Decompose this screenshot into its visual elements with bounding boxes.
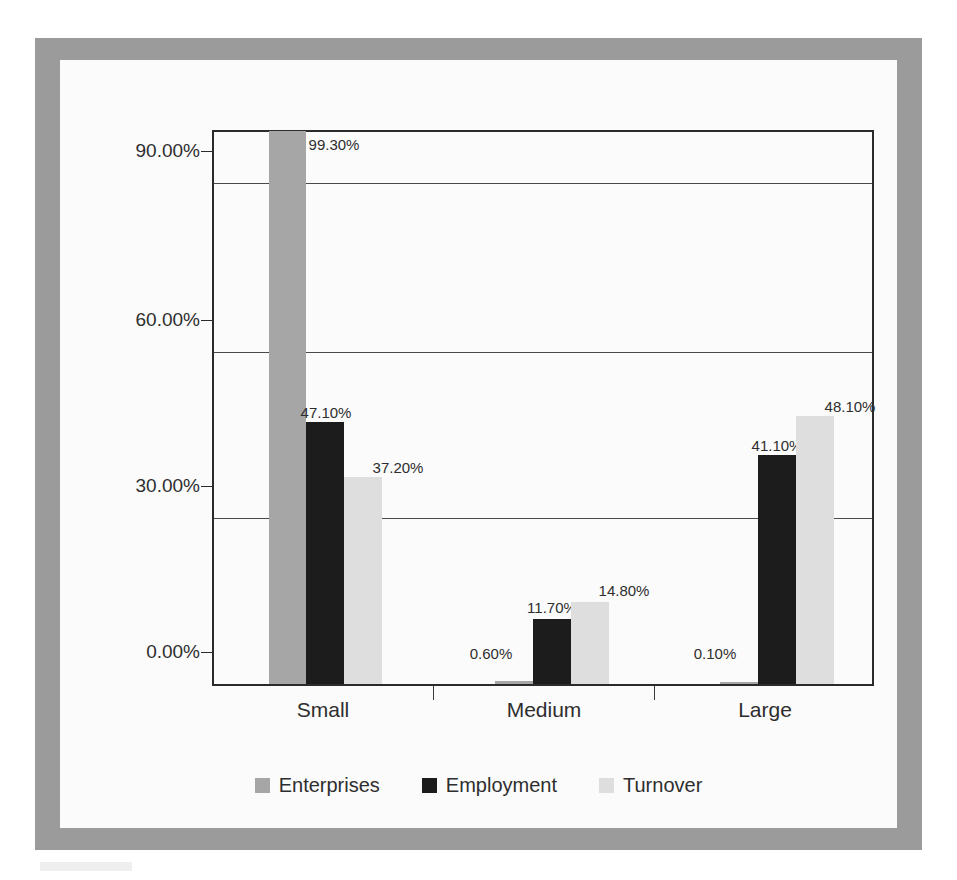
figure-outer-frame: 90.00% 60.00% 30.00% 0.00% 99.30% 47.10%… bbox=[35, 38, 922, 850]
legend-item-employment[interactable]: Employment bbox=[422, 774, 557, 797]
bar-medium-enterprises[interactable] bbox=[495, 681, 533, 684]
x-category-label-medium: Medium bbox=[507, 698, 582, 722]
bar-medium-turnover[interactable] bbox=[571, 602, 609, 684]
legend-swatch-icon-turnover bbox=[599, 778, 614, 793]
bar-large-employment[interactable] bbox=[758, 455, 796, 684]
scan-artifact bbox=[40, 862, 132, 871]
y-tick-label-0: 0.00% bbox=[146, 641, 200, 663]
bar-small-employment[interactable] bbox=[306, 422, 344, 684]
bar-medium-employment[interactable] bbox=[533, 619, 571, 684]
legend-item-enterprises[interactable]: Enterprises bbox=[255, 774, 380, 797]
bar-label-medium-enterprises: 0.60% bbox=[470, 645, 513, 662]
y-tick-label-60: 60.00% bbox=[136, 309, 200, 331]
y-tick-mark-90 bbox=[201, 151, 212, 152]
bar-label-small-turnover: 37.20% bbox=[373, 459, 424, 476]
y-tick-mark-0 bbox=[201, 652, 212, 653]
x-axis-labels: Small Medium Large bbox=[212, 698, 874, 732]
y-tick-label-30: 30.00% bbox=[136, 475, 200, 497]
chart-legend: Enterprises Employment Turnover bbox=[60, 774, 897, 797]
legend-label-turnover: Turnover bbox=[623, 774, 702, 797]
legend-swatch-icon-enterprises bbox=[255, 778, 270, 793]
bar-large-turnover[interactable] bbox=[796, 416, 834, 684]
bar-large-enterprises[interactable] bbox=[720, 682, 758, 684]
bar-label-medium-turnover: 14.80% bbox=[599, 582, 650, 599]
legend-swatch-icon-employment bbox=[422, 778, 437, 793]
y-tick-mark-60 bbox=[201, 320, 212, 321]
bar-label-small-employment: 47.10% bbox=[301, 404, 352, 421]
gridline-90 bbox=[214, 183, 872, 184]
gridline-60 bbox=[214, 352, 872, 353]
x-category-label-small: Small bbox=[297, 698, 350, 722]
x-category-label-large: Large bbox=[738, 698, 792, 722]
bar-small-turnover[interactable] bbox=[344, 477, 382, 684]
legend-label-enterprises: Enterprises bbox=[279, 774, 380, 797]
bar-label-large-turnover: 48.10% bbox=[825, 398, 876, 415]
bar-label-large-enterprises: 0.10% bbox=[694, 645, 737, 662]
plot-area: 99.30% 47.10% 37.20% 0.60% 11.70% 14.80%… bbox=[212, 130, 874, 686]
legend-label-employment: Employment bbox=[446, 774, 557, 797]
bar-label-small-enterprises: 99.30% bbox=[309, 136, 360, 153]
y-axis: 90.00% 60.00% 30.00% 0.00% bbox=[70, 98, 200, 654]
legend-item-turnover[interactable]: Turnover bbox=[599, 774, 702, 797]
bar-label-medium-employment: 11.70% bbox=[527, 599, 577, 616]
y-tick-label-90: 90.00% bbox=[136, 140, 200, 162]
figure-canvas: 90.00% 60.00% 30.00% 0.00% 99.30% 47.10%… bbox=[60, 60, 897, 828]
y-tick-mark-30 bbox=[201, 486, 212, 487]
bar-label-large-employment: 41.10% bbox=[752, 437, 803, 454]
